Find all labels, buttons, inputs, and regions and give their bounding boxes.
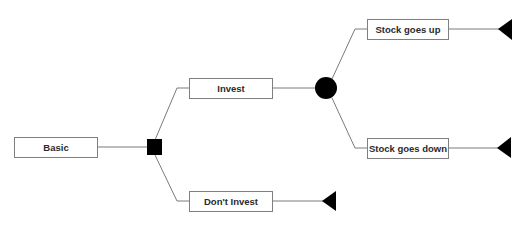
root-node-label: Basic xyxy=(43,142,68,153)
option-invest-label: Invest xyxy=(217,83,245,94)
edge-chance-to-stock-up xyxy=(332,29,367,79)
decision-node-square-icon[interactable] xyxy=(147,139,162,155)
edge-chance-to-stock-down xyxy=(332,98,367,148)
option-node-invest[interactable]: Invest xyxy=(190,79,273,99)
chance-node-circle-icon[interactable] xyxy=(315,77,337,99)
option-dont-invest-label: Don't Invest xyxy=(204,196,259,207)
outcome-stock-down-label: Stock goes down xyxy=(369,143,447,154)
terminal-stock-down-triangle-icon[interactable] xyxy=(497,137,511,158)
decision-tree-diagram: Basic Invest Don't Invest Stock goes up … xyxy=(0,0,521,225)
outcome-node-stock-down[interactable]: Stock goes down xyxy=(368,139,449,159)
option-node-dont-invest[interactable]: Don't Invest xyxy=(190,192,273,212)
terminal-stock-up-triangle-icon[interactable] xyxy=(498,19,512,40)
outcome-stock-up-label: Stock goes up xyxy=(376,24,441,35)
edge-decision-to-dont-invest xyxy=(155,155,189,201)
root-node-basic[interactable]: Basic xyxy=(15,138,98,158)
outcome-node-stock-up[interactable]: Stock goes up xyxy=(368,20,449,40)
edge-decision-to-invest xyxy=(155,88,189,140)
terminal-dont-invest-triangle-icon[interactable] xyxy=(322,191,336,211)
